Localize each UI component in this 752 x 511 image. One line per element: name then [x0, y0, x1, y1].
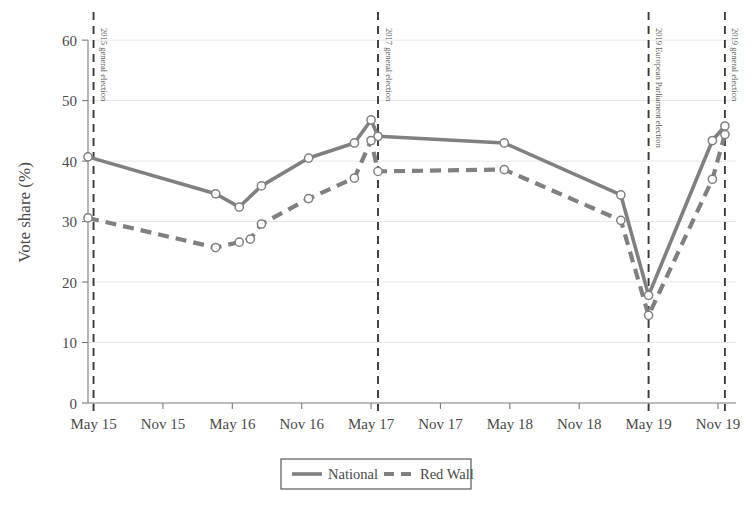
- data-point: [617, 216, 625, 224]
- data-point: [235, 238, 243, 246]
- legend-label-national: National: [328, 466, 378, 482]
- vote-share-line-chart: 0102030405060 May 15Nov 15May 16Nov 16Ma…: [0, 0, 752, 511]
- event-line-label: 2019 general election: [730, 28, 740, 102]
- data-point: [644, 291, 652, 299]
- gridlines: [88, 40, 736, 342]
- data-point: [212, 190, 220, 198]
- data-point: [305, 154, 313, 162]
- data-point: [708, 136, 716, 144]
- x-tick-label: Nov 17: [418, 416, 463, 432]
- y-tick-label: 40: [62, 154, 77, 170]
- data-point: [246, 235, 254, 243]
- x-tick-label: Nov 18: [557, 416, 602, 432]
- x-tick-label: Nov 19: [696, 416, 741, 432]
- y-tick-label: 30: [62, 214, 77, 230]
- data-point: [212, 243, 220, 251]
- data-point: [257, 220, 265, 228]
- y-axis: 0102030405060: [62, 33, 88, 412]
- y-tick-label: 20: [62, 275, 77, 291]
- x-axis: May 15Nov 15May 16Nov 16May 17Nov 17May …: [70, 403, 740, 432]
- x-tick-label: Nov 15: [141, 416, 186, 432]
- data-point: [500, 139, 508, 147]
- data-point: [350, 174, 358, 182]
- x-tick-label: Nov 16: [279, 416, 324, 432]
- data-point: [305, 194, 313, 202]
- legend-label-red-wall: Red Wall: [420, 466, 474, 482]
- data-point: [350, 139, 358, 147]
- data-series: [88, 120, 725, 315]
- data-point: [257, 182, 265, 190]
- x-tick-label: May 18: [487, 416, 533, 432]
- data-point: [367, 136, 375, 144]
- event-line-label: 2017 general election: [384, 28, 394, 102]
- data-point: [374, 167, 382, 175]
- event-line-label: 2019 European Parliament election: [654, 28, 664, 148]
- x-tick-label: May 15: [70, 416, 116, 432]
- data-markers: [84, 116, 729, 320]
- data-point: [644, 311, 652, 319]
- x-tick-label: May 17: [348, 416, 395, 432]
- y-tick-label: 10: [62, 335, 77, 351]
- event-lines: 2015 general election2017 general electi…: [94, 12, 741, 411]
- data-point: [235, 203, 243, 211]
- event-line-label: 2015 general election: [99, 28, 109, 102]
- data-point: [721, 130, 729, 138]
- data-point: [367, 116, 375, 124]
- data-point: [617, 191, 625, 199]
- y-axis-title: Vote share (%): [15, 162, 34, 263]
- data-point: [84, 214, 92, 222]
- chart-legend: NationalRed Wall: [281, 459, 474, 489]
- y-tick-label: 50: [62, 93, 77, 109]
- x-tick-label: May 16: [209, 416, 256, 432]
- data-point: [500, 165, 508, 173]
- y-tick-label: 0: [70, 396, 78, 412]
- chart-container: 0102030405060 May 15Nov 15May 16Nov 16Ma…: [0, 0, 752, 511]
- data-point: [721, 122, 729, 130]
- data-point: [708, 175, 716, 183]
- x-tick-label: May 19: [625, 416, 671, 432]
- y-tick-label: 60: [62, 33, 77, 49]
- series-line-national: [88, 120, 725, 295]
- data-point: [84, 153, 92, 161]
